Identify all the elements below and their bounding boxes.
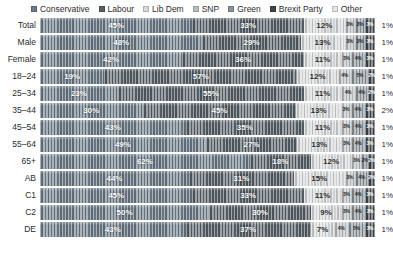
stacked-bar: 43%37%7%4%5%3% <box>40 222 378 237</box>
bar-segment-labour[interactable]: 36% <box>182 52 304 67</box>
bar-segment-snp[interactable]: 3% <box>345 35 355 50</box>
bar-segment-brexit-party[interactable]: 3% <box>365 205 375 220</box>
bar-segment-snp[interactable]: 3% <box>341 188 351 203</box>
bar-segment-conservative[interactable]: 45% <box>40 188 192 203</box>
bar-segment-green[interactable]: 4% <box>355 86 369 101</box>
bar-segment-conservative[interactable]: 44% <box>40 171 189 186</box>
bar-segment-snp[interactable]: 3% <box>351 154 361 169</box>
bar-segment-lib-dem[interactable]: 7% <box>311 222 335 237</box>
bar-segment-lib-dem[interactable]: 11% <box>304 188 341 203</box>
bar-segment-lib-dem[interactable]: 9% <box>311 205 341 220</box>
bar-segment-green[interactable]: 4% <box>351 205 365 220</box>
bar-segment-labour[interactable]: 31% <box>189 171 294 186</box>
bar-segment-snp[interactable]: 3% <box>345 171 355 186</box>
bar-segment-green[interactable]: 5% <box>351 69 368 84</box>
bar-segment-labour[interactable]: 33% <box>192 188 304 203</box>
bar-segment-snp[interactable]: 3% <box>341 120 351 135</box>
bar-segment-labour[interactable]: 35% <box>186 120 304 135</box>
legend-item-lib-dem[interactable]: Lib Dem <box>143 5 184 14</box>
segment-value-label: 3% <box>343 141 350 147</box>
bar-segment-lib-dem[interactable]: 13% <box>301 35 345 50</box>
chart-row: AB44%31%15%3%4%2%1% <box>0 170 393 186</box>
bar-segment-conservative[interactable]: 19% <box>40 69 104 84</box>
bar-segment-brexit-party[interactable]: 3% <box>365 120 375 135</box>
bar-segment-labour[interactable]: 57% <box>104 69 297 84</box>
bar-segment-labour[interactable]: 33% <box>192 18 304 33</box>
bar-segment-brexit-party[interactable]: 3% <box>365 103 375 118</box>
bar-segment-conservative[interactable]: 43% <box>40 120 186 135</box>
bar-segment-lib-dem[interactable]: 11% <box>304 120 341 135</box>
segment-value-label: 3% <box>356 39 363 45</box>
legend-item-brexit-party[interactable]: Brexit Party <box>270 5 323 14</box>
bar-segment-lib-dem[interactable]: 12% <box>297 69 338 84</box>
bar-segment-brexit-party[interactable]: 3% <box>365 52 375 67</box>
segment-value-label: 37% <box>240 225 256 234</box>
bar-segment-lib-dem[interactable]: 11% <box>304 52 341 67</box>
segment-value-label: 50% <box>117 208 133 217</box>
bar-segment-lib-dem[interactable]: 13% <box>297 137 341 152</box>
bar-segment-snp[interactable]: 4% <box>334 222 348 237</box>
bar-segment-lib-dem[interactable]: 12% <box>311 154 352 169</box>
bar-segment-brexit-party[interactable]: 2% <box>368 171 375 186</box>
legend-item-conservative[interactable]: Conservative <box>31 5 90 14</box>
legend-item-green[interactable]: Green <box>228 5 261 14</box>
legend-item-other[interactable]: Other <box>332 5 362 14</box>
bar-segment-labour[interactable]: 55% <box>118 86 304 101</box>
bar-segment-brexit-party[interactable]: 3% <box>365 222 375 237</box>
bar-segment-green[interactable]: 4% <box>351 137 365 152</box>
bar-segment-brexit-party[interactable]: 3% <box>365 35 375 50</box>
segment-value-label: 3% <box>356 22 363 28</box>
bar-segment-green[interactable]: 4% <box>351 188 365 203</box>
bar-segment-green[interactable]: 2% <box>361 154 368 169</box>
bar-segment-labour[interactable]: 27% <box>206 137 297 152</box>
bar-segment-green[interactable]: 4% <box>351 52 365 67</box>
bar-segment-green[interactable]: 3% <box>355 35 365 50</box>
bar-segment-snp[interactable]: 3% <box>345 18 355 33</box>
bar-segment-brexit-party[interactable]: 3% <box>365 18 375 33</box>
bar-segment-lib-dem[interactable]: 13% <box>296 103 340 118</box>
segment-value-label: 4% <box>355 56 362 62</box>
bar-segment-green[interactable]: 4% <box>355 171 369 186</box>
bar-segment-brexit-party[interactable]: 2% <box>368 154 375 169</box>
bar-segment-conservative[interactable]: 42% <box>40 52 182 67</box>
bar-segment-labour[interactable]: 37% <box>186 222 311 237</box>
bar-segment-labour[interactable]: 29% <box>202 35 300 50</box>
bar-segment-brexit-party[interactable]: 3% <box>365 137 375 152</box>
bar-segment-snp[interactable]: 4% <box>338 69 352 84</box>
bar-segment-green[interactable]: 4% <box>351 103 365 118</box>
bar-segment-conservative[interactable]: 43% <box>40 222 186 237</box>
legend-item-labour[interactable]: Labour <box>99 5 134 14</box>
bar-segment-conservative[interactable]: 62% <box>40 154 250 169</box>
bar-segment-conservative[interactable]: 49% <box>40 137 206 152</box>
bar-segment-labour[interactable]: 18% <box>250 154 311 169</box>
bar-segment-green[interactable]: 5% <box>348 222 365 237</box>
bar-segment-green[interactable]: 4% <box>351 120 365 135</box>
other-value-label: 1% <box>378 140 393 149</box>
bar-segment-conservative[interactable]: 23% <box>40 86 118 101</box>
legend-swatch-icon <box>31 6 37 12</box>
bar-segment-lib-dem[interactable]: 15% <box>294 171 345 186</box>
bar-segment-snp[interactable]: 3% <box>341 52 351 67</box>
bar-segment-labour[interactable]: 45% <box>143 103 297 118</box>
bar-segment-conservative[interactable]: 30% <box>40 103 143 118</box>
segment-value-label: 15% <box>311 174 327 183</box>
bar-segment-conservative[interactable]: 45% <box>40 18 192 33</box>
stacked-bar: 44%31%15%3%4%2% <box>40 171 378 186</box>
bar-segment-brexit-party[interactable]: 2% <box>368 86 375 101</box>
row-label-ab: AB <box>0 174 40 183</box>
bar-segment-brexit-party[interactable]: 2% <box>368 69 375 84</box>
bar-segment-lib-dem[interactable]: 11% <box>304 86 341 101</box>
bar-segment-snp[interactable]: 3% <box>341 103 351 118</box>
bar-segment-lib-dem[interactable]: 12% <box>304 18 345 33</box>
bar-segment-labour[interactable]: 30% <box>209 205 311 220</box>
bar-segment-conservative[interactable]: 48% <box>40 35 202 50</box>
row-label-45-54: 45–54 <box>0 123 40 132</box>
row-label-55-64: 55–64 <box>0 140 40 149</box>
bar-segment-snp[interactable]: 3% <box>341 205 351 220</box>
bar-segment-snp[interactable]: 3% <box>341 137 351 152</box>
legend-item-snp[interactable]: SNP <box>193 5 219 14</box>
bar-segment-snp[interactable]: 4% <box>341 86 355 101</box>
bar-segment-brexit-party[interactable]: 3% <box>365 188 375 203</box>
bar-segment-green[interactable]: 3% <box>355 18 365 33</box>
bar-segment-conservative[interactable]: 50% <box>40 205 209 220</box>
